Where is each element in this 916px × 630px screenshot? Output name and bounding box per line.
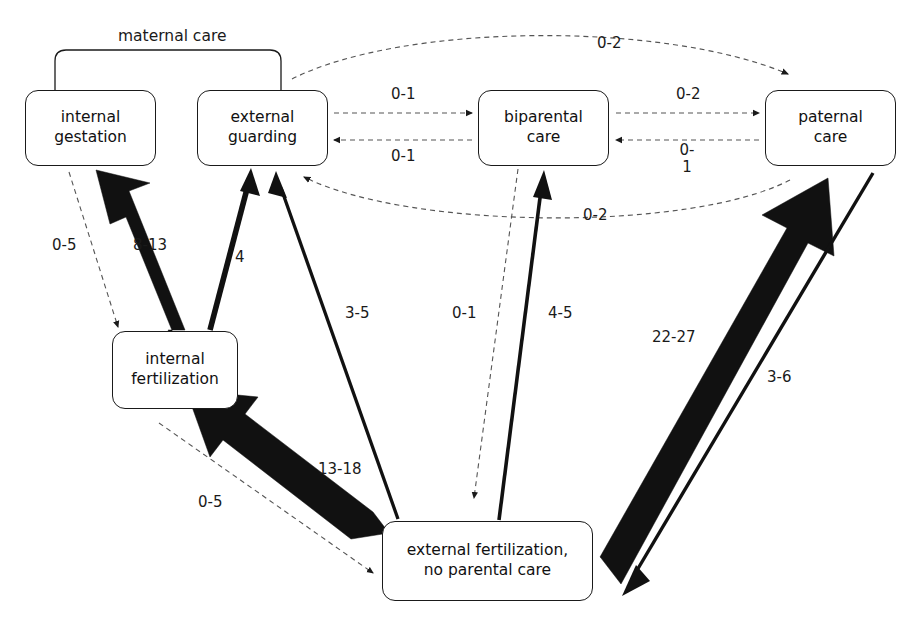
edge-label-intfert-to-guarding: 4 [235,249,245,266]
edge-label-extfert-to-intfert: 13-18 [318,461,362,478]
maternal-care-bracket [55,50,281,90]
node-label-line1: paternal [798,108,863,128]
node-paternal-care[interactable]: paternal care [765,90,896,166]
node-external-guarding[interactable]: external guarding [197,90,328,166]
node-label-line2: no parental care [407,561,568,581]
edge-guarding-to-paternal-top [292,36,788,79]
group-label-maternal-care: maternal care [118,27,226,45]
edge-extfert-to-paternal [600,178,834,584]
node-label-line2: fertilization [131,370,219,390]
node-internal-gestation[interactable]: internal gestation [25,90,156,166]
edge-label-biparental-to-paternal: 0-2 [676,86,701,103]
edge-label-biparental-to-guarding: 0-1 [391,148,416,165]
node-label-line1: external fertilization, [407,541,568,561]
node-label-line1: internal [131,350,219,370]
edge-label-paternal-to-biparental: 0- 1 [676,142,698,175]
node-label-line1: biparental [504,108,583,128]
edge-label-guarding-to-biparental: 0-1 [391,86,416,103]
node-label-line2: care [798,128,863,148]
node-external-fertilization[interactable]: external fertilization, no parental care [382,521,593,601]
node-label-line1: internal [54,108,127,128]
edge-label-extfert-to-guarding: 3-5 [345,305,370,322]
node-label-line2: guarding [228,128,297,148]
edge-label-gestation-to-fertilization: 0-5 [52,237,77,254]
node-label-line1: external [228,108,297,128]
edge-label-biparental-to-extfert: 0-1 [452,305,477,322]
edge-extfert-to-biparental [499,170,552,520]
edge-paternal-to-extfert [622,173,873,596]
edge-label-paternal-to-extfert: 3-6 [767,369,792,386]
edge-biparental-to-extfert [474,169,518,498]
edge-label-extfert-to-paternal: 22-27 [652,329,696,346]
edge-label-paternal-to-guarding-bottom: 0-2 [583,207,608,224]
node-label-line2: care [504,128,583,148]
edge-label-intfert-to-extfert: 0-5 [198,494,223,511]
node-biparental-care[interactable]: biparental care [478,90,609,166]
edge-label-extfert-to-biparental: 4-5 [548,305,573,322]
edge-label-intfert-to-gestation: 8-13 [133,237,167,254]
node-label-line2: gestation [54,128,127,148]
diagram-canvas: maternal care internal gestation externa… [0,0,916,630]
edge-intfert-to-gestation [96,170,185,355]
node-internal-fertilization[interactable]: internal fertilization [112,331,238,409]
edge-label-guarding-to-paternal-top: 0-2 [597,35,622,52]
